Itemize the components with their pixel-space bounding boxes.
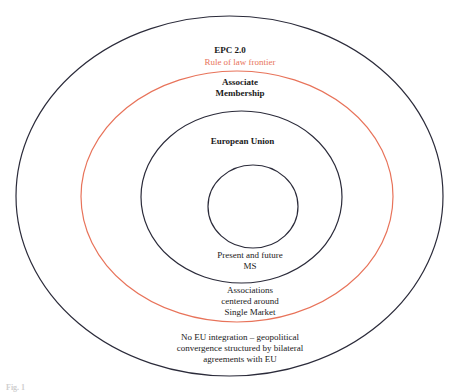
epc-title: EPC 2.0	[200, 45, 260, 56]
member-states-description: Present and future MS	[195, 250, 305, 272]
ring-core-member-states	[208, 165, 298, 248]
epc-description: No EU integration – geopolitical converg…	[160, 332, 320, 365]
european-union-title: European Union	[190, 136, 295, 147]
associate-description: Associations centered around Single Mark…	[195, 285, 305, 318]
rule-of-law-label: Rule of law frontier	[180, 57, 300, 68]
associate-membership-title: Associate Membership	[190, 77, 290, 99]
figure-caption: Fig. 1	[6, 383, 25, 392]
